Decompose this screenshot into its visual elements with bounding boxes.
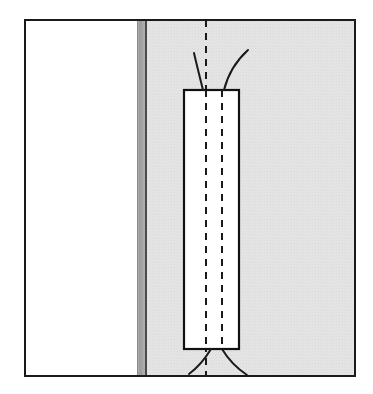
shaded-field-texture xyxy=(145,20,355,376)
figure-root: Technical line diagram Rectangular outli… xyxy=(0,0,373,394)
technical-diagram xyxy=(0,0,373,394)
vertical-dark-band xyxy=(137,20,145,376)
left-white-region xyxy=(25,20,137,376)
central-rectangle xyxy=(184,90,239,349)
